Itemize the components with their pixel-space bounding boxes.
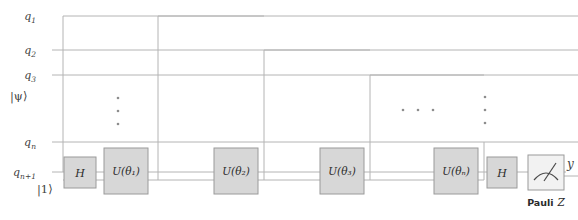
state-label-one: |1⟩ <box>37 182 53 197</box>
wire-label-q1: q1 <box>24 10 36 25</box>
horizontal-ellipsis <box>402 109 435 112</box>
measurement-gate[interactable] <box>528 155 564 190</box>
ellipsis-dot <box>484 122 487 125</box>
gate-u-theta-1[interactable]: U(θ₁) <box>104 148 148 194</box>
gate-u-theta-3[interactable]: U(θ₃) <box>320 148 364 194</box>
caption-operator: Z <box>557 196 566 208</box>
control-path-u-theta-2 <box>258 50 264 180</box>
ellipsis-dot <box>484 96 487 99</box>
circuit-canvas: q1 q2 q3 qn qn+1 |ψ⟩ |1⟩ H <box>0 0 578 220</box>
ellipsis-dot <box>117 97 120 100</box>
gate-label: U(θ₁) <box>112 165 140 177</box>
gate-label: U(θ₃) <box>328 165 356 177</box>
control-path-u-theta-3 <box>364 75 370 180</box>
wire-label-qn: qn <box>24 136 36 151</box>
gate-label: U(θ₂) <box>222 165 250 177</box>
state-label-psi: |ψ⟩ <box>10 89 27 104</box>
gate-u-theta-n[interactable]: U(θₙ) <box>434 148 478 194</box>
gate-label: U(θₙ) <box>442 165 470 177</box>
wire-label-q3: q3 <box>24 69 36 84</box>
ellipsis-dot <box>432 109 435 112</box>
ellipsis-dot <box>402 109 405 112</box>
gate-label: H <box>74 167 85 180</box>
ellipsis-dot <box>117 123 120 126</box>
gate-hadamard-last[interactable]: H <box>487 157 517 188</box>
control-path-u-theta-1 <box>148 16 158 180</box>
ellipsis-dot <box>417 109 420 112</box>
caption-text: Pauli <box>527 197 553 208</box>
ellipsis-dot <box>484 109 487 112</box>
quantum-circuit-figure: q1 q2 q3 qn qn+1 |ψ⟩ |1⟩ H <box>0 0 578 220</box>
wire-label-q2: q2 <box>24 44 36 59</box>
vertical-ellipsis-left <box>117 97 120 126</box>
measurement-output-label: y <box>566 157 574 171</box>
gate-u-theta-2[interactable]: U(θ₂) <box>214 148 258 194</box>
wire-label-qn1: qn+1 <box>13 166 36 181</box>
control-path-u-theta-n <box>478 142 484 180</box>
vertical-ellipsis-right <box>484 96 487 125</box>
gate-hadamard-first[interactable]: H <box>64 157 96 188</box>
measurement-caption: PauliZ <box>527 196 565 208</box>
gate-label: H <box>496 167 507 180</box>
ellipsis-dot <box>117 110 120 113</box>
